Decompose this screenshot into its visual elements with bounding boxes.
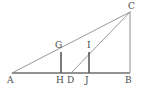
- vertex-label-C: C: [128, 2, 135, 11]
- vertex-label-H: H: [56, 76, 64, 85]
- geometry-figure: A H D J B G I C: [0, 0, 148, 95]
- segment-AC-hypotenuse: [12, 12, 130, 73]
- segment-DC-cevian: [71, 12, 130, 73]
- vertex-label-J: J: [85, 76, 89, 85]
- vertex-label-D: D: [67, 76, 74, 85]
- vertex-label-G: G: [55, 41, 62, 50]
- vertex-label-A: A: [7, 76, 14, 85]
- vertex-label-I: I: [87, 41, 91, 50]
- vertex-label-B: B: [125, 76, 132, 85]
